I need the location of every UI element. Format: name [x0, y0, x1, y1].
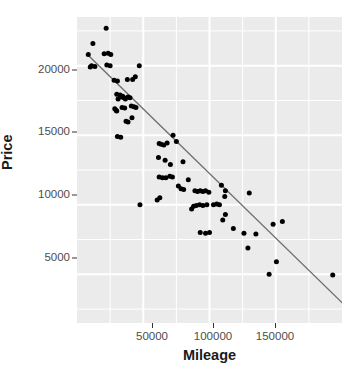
- data-point: [137, 63, 142, 68]
- data-point: [267, 272, 272, 277]
- data-point: [217, 202, 222, 207]
- data-point: [186, 177, 191, 182]
- data-point: [330, 273, 335, 278]
- x-tick-label-150000: 150000: [256, 331, 294, 343]
- data-point: [206, 190, 211, 195]
- y-tick-label-20000: 20000: [38, 64, 70, 76]
- data-point: [274, 259, 279, 264]
- data-point: [115, 78, 120, 83]
- data-point: [253, 231, 258, 236]
- y-tick-label-15000: 15000: [38, 126, 70, 138]
- data-point: [271, 222, 276, 227]
- data-point: [176, 183, 181, 188]
- data-point: [168, 162, 173, 167]
- data-point: [120, 105, 125, 110]
- data-point: [241, 231, 246, 236]
- data-point: [220, 218, 225, 223]
- data-point: [108, 52, 113, 57]
- data-point: [90, 41, 95, 46]
- plot-panel: [77, 17, 342, 323]
- data-point: [155, 197, 160, 202]
- data-point: [170, 174, 175, 179]
- x-tick-mark-100000: [213, 323, 214, 328]
- scatter-plot-figure: 5000 10000 15000 20000 50000 100000 1500…: [0, 0, 356, 378]
- x-tick-mark-150000: [275, 323, 276, 328]
- data-point: [198, 230, 203, 235]
- x-axis-title: Mileage: [77, 348, 342, 363]
- y-tick-mark-10000: [72, 195, 77, 196]
- data-point: [223, 212, 228, 217]
- data-point: [222, 194, 227, 199]
- data-point: [231, 226, 236, 231]
- data-point: [128, 95, 133, 100]
- data-point: [245, 245, 250, 250]
- data-point: [156, 155, 161, 160]
- data-point: [163, 158, 168, 163]
- data-point: [181, 159, 186, 164]
- data-point: [223, 188, 228, 193]
- data-point: [118, 135, 123, 140]
- data-point: [280, 219, 285, 224]
- y-axis-title: Price: [0, 135, 15, 170]
- data-point: [114, 108, 119, 113]
- data-point: [92, 64, 97, 69]
- y-tick-mark-5000: [72, 258, 77, 259]
- data-point: [204, 202, 209, 207]
- trend-line: [89, 56, 342, 309]
- x-tick-mark-50000: [152, 323, 153, 328]
- x-tick-label-100000: 100000: [194, 331, 232, 343]
- data-point: [104, 26, 109, 31]
- data-point: [129, 115, 134, 120]
- y-tick-label-5000: 5000: [44, 252, 70, 264]
- data-point: [219, 183, 224, 188]
- data-point: [174, 139, 179, 144]
- plot-canvas: [77, 17, 342, 323]
- data-point: [171, 133, 176, 138]
- data-point: [165, 140, 170, 145]
- data-point: [137, 202, 142, 207]
- y-tick-mark-20000: [72, 70, 77, 71]
- data-point: [133, 74, 138, 79]
- y-tick-label-10000: 10000: [38, 189, 70, 201]
- x-tick-label-50000: 50000: [136, 331, 168, 343]
- data-point: [133, 105, 138, 110]
- data-point: [86, 52, 91, 57]
- y-tick-mark-15000: [72, 132, 77, 133]
- data-point: [247, 190, 252, 195]
- data-point: [108, 63, 113, 68]
- data-point: [125, 77, 130, 82]
- data-point: [126, 120, 131, 125]
- data-point: [207, 230, 212, 235]
- data-point: [181, 187, 186, 192]
